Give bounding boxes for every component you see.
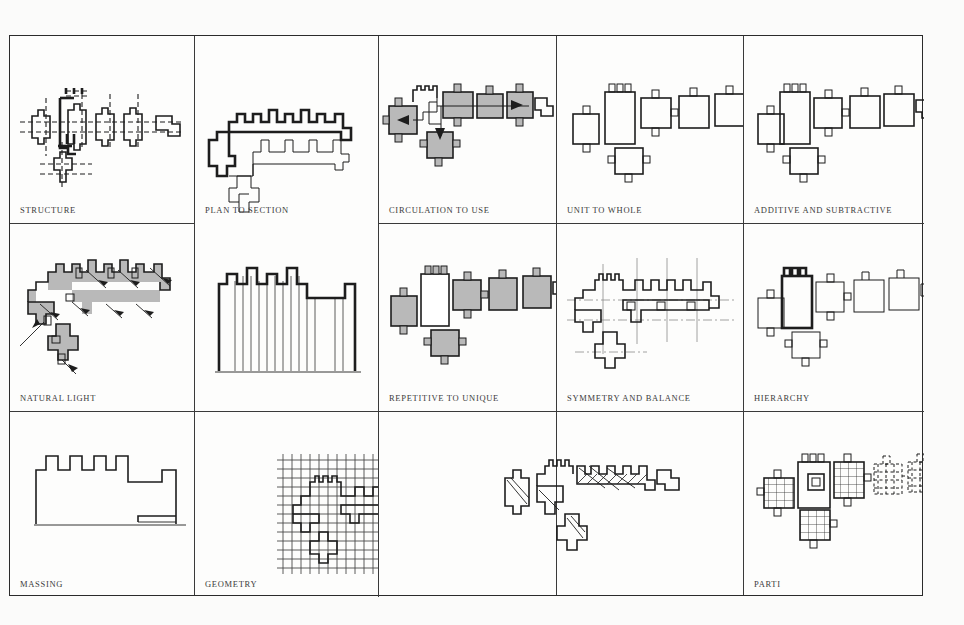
cell-structure: STRUCTURE bbox=[10, 36, 194, 223]
cell-circulation-to-use: CIRCULATION TO USE bbox=[379, 36, 556, 223]
natural-light-diagram bbox=[10, 224, 194, 411]
symmetry-and-balance-diagram bbox=[557, 224, 743, 411]
cell-unit-to-whole: UNIT TO WHOLE bbox=[557, 36, 743, 223]
cell-hierarchy: HIERARCHY bbox=[744, 224, 924, 411]
circulation-to-use-diagram bbox=[379, 36, 556, 223]
cell-geometry: GEOMETRY bbox=[195, 412, 378, 597]
additive-and-subtractive-diagram bbox=[744, 36, 924, 223]
cell-label-repetitive-to-unique: REPETITIVE TO UNIQUE bbox=[389, 393, 499, 403]
parti-diagram bbox=[744, 412, 924, 597]
cell-label-natural-light: NATURAL LIGHT bbox=[20, 393, 96, 403]
cell-label-additive-subtractive: ADDITIVE AND SUBTRACTIVE bbox=[754, 205, 892, 215]
cell-additive-subtractive: ADDITIVE AND SUBTRACTIVE bbox=[744, 36, 924, 223]
cell-label-circulation-to-use: CIRCULATION TO USE bbox=[389, 205, 490, 215]
cell-parti: PARTI bbox=[744, 412, 924, 597]
cell-label-massing: MASSING bbox=[20, 579, 63, 589]
massing-diagram bbox=[10, 412, 194, 597]
cell-label-plan-to-section: PLAN TO SECTION bbox=[205, 205, 289, 215]
plan-to-section-diagram bbox=[195, 36, 378, 411]
cell-repetitive-to-unique: REPETITIVE TO UNIQUE bbox=[379, 224, 556, 411]
diagram-sheet: STRUCTURE P bbox=[9, 35, 923, 596]
cell-label-symmetry-and-balance: SYMMETRY AND BALANCE bbox=[567, 393, 691, 403]
unit-to-whole-diagram bbox=[557, 36, 743, 223]
cell-label-unit-to-whole: UNIT TO WHOLE bbox=[567, 205, 642, 215]
hatched-massing-diagram bbox=[379, 412, 743, 597]
geometry-diagram bbox=[195, 412, 378, 597]
cell-label-structure: STRUCTURE bbox=[20, 205, 76, 215]
hierarchy-diagram bbox=[744, 224, 924, 411]
cell-symmetry-and-balance: SYMMETRY AND BALANCE bbox=[557, 224, 743, 411]
repetitive-to-unique-diagram bbox=[379, 224, 556, 411]
cell-massing: MASSING bbox=[10, 412, 194, 597]
cell-label-geometry: GEOMETRY bbox=[205, 579, 257, 589]
cell-unlabeled-hatched bbox=[379, 412, 743, 597]
cell-plan-to-section: PLAN TO SECTION bbox=[195, 36, 378, 411]
cell-natural-light: NATURAL LIGHT bbox=[10, 224, 194, 411]
structure-diagram bbox=[10, 36, 194, 223]
cell-label-hierarchy: HIERARCHY bbox=[754, 393, 810, 403]
cell-label-parti: PARTI bbox=[754, 579, 781, 589]
